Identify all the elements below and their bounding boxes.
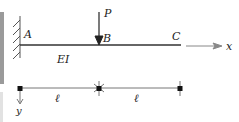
fixed-support-icon: [13, 16, 20, 59]
label-x: x: [226, 40, 233, 53]
label-p: P: [103, 7, 112, 20]
beam-diagram: A B C P EI x y ℓ ℓ: [0, 0, 239, 122]
label-b: B: [102, 32, 111, 45]
label-ei: EI: [56, 53, 70, 66]
label-c: C: [172, 30, 181, 43]
label-y: y: [15, 105, 22, 116]
label-length-2: ℓ: [134, 92, 139, 105]
x-axis-arrow-icon: [186, 43, 222, 49]
load-arrow-icon: [95, 12, 103, 45]
y-axis-arrow-icon: [17, 91, 23, 104]
label-length-1: ℓ: [55, 92, 60, 105]
label-a: A: [23, 28, 32, 41]
